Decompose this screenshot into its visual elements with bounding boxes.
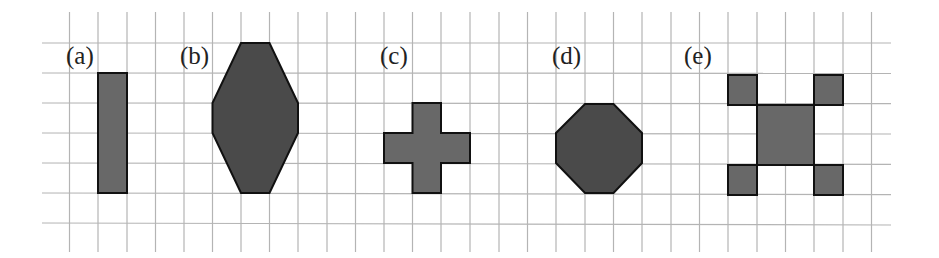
shape-label: (b)	[180, 42, 209, 70]
shape-label: (e)	[684, 42, 712, 70]
shape-rectangle	[98, 73, 127, 193]
shape-label: (d)	[552, 42, 581, 70]
grid-horizontal-line	[42, 223, 891, 225]
shape-label: (a)	[66, 42, 94, 70]
shape-label: (c)	[380, 42, 408, 70]
shape-octagon	[556, 104, 642, 193]
shapes-on-grid-figure: (a)(b)(c)(d)(e)	[0, 0, 939, 258]
shape-square-with-corner-squares	[728, 75, 757, 105]
shape-elongated-octagon	[213, 43, 299, 193]
shape-square-with-corner-squares	[814, 165, 843, 195]
shape-square-with-corner-squares	[757, 105, 814, 165]
grid-horizontal-line	[42, 103, 891, 104]
shape-cross	[384, 103, 470, 193]
grid-horizontal-line	[42, 193, 891, 195]
labels-group: (a)(b)(c)(d)(e)	[66, 42, 712, 70]
shape-square-with-corner-squares	[814, 75, 843, 105]
shape-square-with-corner-squares	[728, 165, 757, 195]
